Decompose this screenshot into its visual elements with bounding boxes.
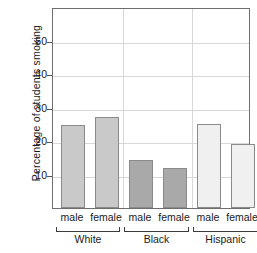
y-tick-label: 40 [7, 68, 47, 80]
y-tick-label: 20 [7, 135, 47, 147]
y-tick-mark [47, 42, 52, 43]
y-tick-label: 50 [7, 35, 47, 47]
gridline [53, 110, 249, 111]
bar-white-male [61, 125, 85, 208]
gridline [53, 76, 249, 77]
bracket-hispanic [193, 227, 257, 232]
bar-white-female [95, 117, 119, 208]
group-label-hispanic: Hispanic [193, 233, 257, 245]
bar-hispanic-female [231, 144, 255, 208]
y-tick-mark [47, 176, 52, 177]
bracket-white [56, 227, 120, 232]
y-tick-label: 10 [7, 169, 47, 181]
y-tick-mark [47, 109, 52, 110]
bar-chart: Percentage of students smoking 102030405… [0, 0, 257, 253]
x-tick-label: female [212, 211, 257, 223]
plot-area [52, 8, 250, 209]
gridline [53, 43, 249, 44]
group-label-black: Black [124, 233, 189, 245]
bar-black-female [163, 168, 187, 208]
y-tick-label: 30 [7, 102, 47, 114]
bar-hispanic-male [197, 124, 221, 208]
y-tick-mark [47, 142, 52, 143]
group-separator [192, 9, 193, 208]
bar-black-male [129, 160, 153, 208]
group-separator [123, 9, 124, 208]
bracket-black [124, 227, 189, 232]
group-label-white: White [56, 233, 120, 245]
y-tick-mark [47, 75, 52, 76]
